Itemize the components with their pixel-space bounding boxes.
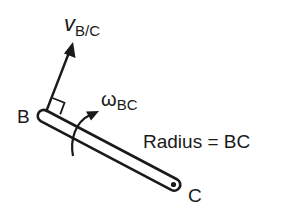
- radius-label: Radius = BC: [143, 132, 250, 151]
- velocity-arrow: [46, 50, 70, 112]
- angular-velocity-arrow: [72, 115, 90, 156]
- velocity-arrowhead-icon: [64, 42, 76, 58]
- omega-symbol: ω: [101, 88, 117, 110]
- velocity-label: vB/C: [64, 13, 100, 38]
- velocity-symbol: v: [64, 11, 75, 36]
- right-angle-marker: [53, 98, 65, 114]
- point-b-label: B: [17, 107, 30, 126]
- velocity-subscript: B/C: [75, 22, 100, 39]
- angular-velocity-label: ωBC: [101, 89, 137, 112]
- diagram-canvas: [0, 0, 292, 216]
- point-c-label: C: [188, 186, 202, 205]
- pivot-c-dot: [171, 182, 176, 187]
- omega-subscript: BC: [117, 96, 138, 113]
